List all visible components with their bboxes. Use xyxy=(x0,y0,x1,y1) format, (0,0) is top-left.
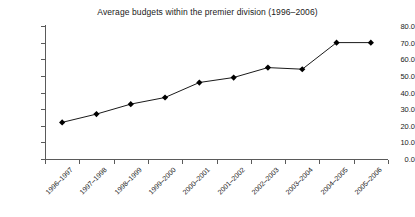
data-point-marker xyxy=(93,111,99,117)
y-tick-label: 10.0 xyxy=(385,138,415,147)
y-tick-mark xyxy=(41,109,45,110)
data-point-marker xyxy=(162,94,168,100)
data-point-marker xyxy=(196,79,202,85)
y-tick-label: 20.0 xyxy=(385,121,415,130)
y-tick-mark xyxy=(41,59,45,60)
x-tick-mark xyxy=(45,160,46,164)
y-tick-label: 0.0 xyxy=(385,155,415,164)
y-tick-mark xyxy=(41,93,45,94)
x-tick-mark xyxy=(148,160,149,164)
x-tick-mark xyxy=(388,160,389,164)
data-point-marker xyxy=(368,40,374,46)
y-tick-label: 50.0 xyxy=(385,71,415,80)
x-tick-mark xyxy=(285,160,286,164)
y-tick-mark xyxy=(41,43,45,44)
y-axis xyxy=(0,0,45,217)
y-tick-label: 80.0 xyxy=(385,22,415,31)
series-markers xyxy=(59,40,374,126)
x-tick-mark xyxy=(319,160,320,164)
y-tick-mark xyxy=(41,76,45,77)
data-point-marker xyxy=(299,66,305,72)
data-point-marker xyxy=(128,101,134,107)
x-tick-mark xyxy=(251,160,252,164)
line-chart: Average budgets within the premier divis… xyxy=(0,0,415,217)
y-tick-label: 70.0 xyxy=(385,38,415,47)
y-tick-label: 30.0 xyxy=(385,105,415,114)
data-point-marker xyxy=(265,64,271,70)
data-point-marker xyxy=(231,74,237,80)
series-layer xyxy=(0,0,415,217)
x-tick-mark xyxy=(182,160,183,164)
x-tick-mark xyxy=(354,160,355,164)
y-tick-mark xyxy=(41,26,45,27)
data-point-marker xyxy=(333,40,339,46)
x-tick-mark xyxy=(114,160,115,164)
series-line xyxy=(62,43,371,123)
x-tick-mark xyxy=(217,160,218,164)
y-axis-line xyxy=(45,25,46,160)
y-tick-label: 60.0 xyxy=(385,55,415,64)
y-tick-mark xyxy=(41,126,45,127)
y-tick-label: 40.0 xyxy=(385,88,415,97)
data-point-marker xyxy=(59,119,65,125)
y-tick-mark xyxy=(41,142,45,143)
x-tick-mark xyxy=(79,160,80,164)
chart-title: Average budgets within the premier divis… xyxy=(0,7,415,17)
